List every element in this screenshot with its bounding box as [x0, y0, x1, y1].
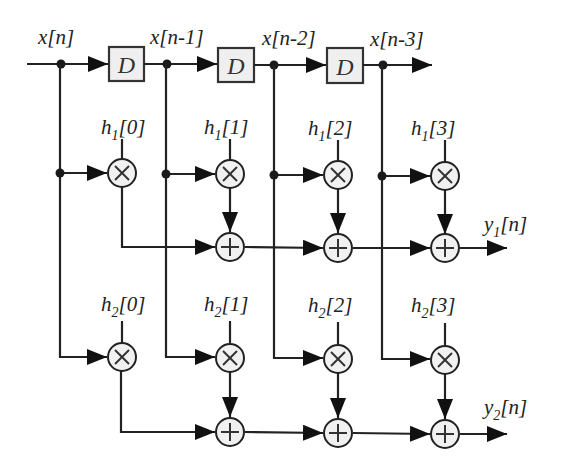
delay-label-1: D — [117, 52, 135, 78]
junction-dot — [56, 169, 65, 178]
coef-h2-2: h2[2] — [308, 293, 352, 321]
plus-icon — [324, 419, 352, 447]
multiply-icon — [216, 344, 244, 372]
tap0-wire — [60, 64, 107, 357]
adder1-to-adder2-wire — [245, 247, 323, 248]
plus-icon — [431, 234, 459, 262]
output-label-y2: y2[n] — [482, 395, 527, 423]
coef-h1-0: h1[0] — [101, 115, 145, 143]
plus-icon — [431, 420, 459, 448]
junction-dot — [270, 171, 279, 180]
multiply-icon — [431, 346, 459, 374]
adder2-to-adder3-wire — [353, 433, 430, 434]
coef-h2-0: h2[0] — [101, 292, 145, 320]
delay-label-2: D — [226, 53, 244, 79]
delay-label-3: D — [335, 54, 353, 80]
tap-label-1: x[n-1] — [149, 25, 204, 49]
multiply-icon — [431, 162, 459, 190]
adder1-to-adder2-wire — [245, 432, 323, 433]
delay-line: D D D x[n] x[n-1] x[n-2] x[n-3] — [27, 25, 432, 83]
multiply-icon — [216, 160, 244, 188]
multiply-icon — [108, 343, 136, 371]
coef-h1-1: h1[1] — [204, 115, 248, 143]
plus-icon — [216, 233, 244, 261]
output-label-y1: y1[n] — [482, 212, 527, 240]
coef-h1-3: h1[3] — [411, 116, 455, 144]
tap-label-2: x[n-2] — [261, 26, 316, 50]
multiply-icon — [324, 161, 352, 189]
tap-label-3: x[n-3] — [369, 27, 424, 51]
fir-filter-diagram: D D D x[n] x[n-1] x[n-2] x[n-3] — [0, 0, 563, 470]
coef-h1-2: h1[2] — [308, 116, 352, 144]
mult0-to-adder1-wire — [121, 371, 215, 432]
plus-icon — [216, 418, 244, 446]
coef-h2-1: h2[1] — [204, 292, 248, 320]
multiply-icon — [324, 345, 352, 373]
tap-label-0: x[n] — [37, 25, 74, 49]
junction-dot — [162, 170, 171, 179]
coef-h2-3: h2[3] — [411, 293, 455, 321]
plus-icon — [324, 234, 352, 262]
junction-dot — [378, 172, 387, 181]
mult0-to-adder1-wire — [122, 187, 215, 247]
multiply-icon — [108, 159, 136, 187]
